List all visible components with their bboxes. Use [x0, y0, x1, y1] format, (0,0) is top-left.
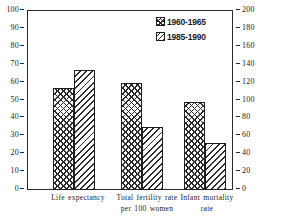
axis-tick-right-40: 40 [242, 148, 250, 158]
tick-mark-icon [20, 152, 24, 153]
x-axis-category-labels: Life expectancyTotal fertility rateper 1… [28, 193, 232, 221]
legend-item-1960-1965: 1960-1965 [156, 15, 242, 28]
legend-swatch-icon [156, 32, 165, 41]
bar [53, 88, 74, 190]
bar [142, 127, 163, 190]
tick-mark-icon [20, 27, 24, 28]
tick-mark-icon [20, 134, 24, 135]
axis-tick-left-60: 60 [11, 77, 19, 87]
axis-tick-left-0: 0 [15, 184, 19, 194]
tick-mark-icon [236, 9, 240, 10]
axis-tick-left-30: 30 [11, 130, 19, 140]
axis-tick-right-200: 200 [242, 5, 255, 15]
tick-mark-icon [20, 170, 24, 171]
tick-mark-icon [20, 81, 24, 82]
tick-mark-icon [20, 99, 24, 100]
tick-mark-icon [20, 45, 24, 46]
axis-tick-left-90: 90 [11, 23, 19, 33]
category-label: Infant mortalityrate [167, 193, 247, 214]
bar-group [53, 11, 97, 190]
category-label-line: rate [167, 204, 247, 215]
tick-mark-icon [20, 188, 24, 189]
axis-tick-right-60: 60 [242, 130, 250, 140]
axis-tick-right-140: 140 [242, 59, 255, 69]
axis-tick-right-100: 100 [242, 95, 255, 105]
axis-tick-left-100: 100 [6, 5, 19, 15]
tick-mark-icon [236, 188, 240, 189]
y-axis-left: 0102030405060708090100 [0, 10, 24, 190]
axis-tick-left-10: 10 [11, 166, 19, 176]
axis-tick-left-20: 20 [11, 148, 19, 158]
bar [74, 70, 95, 190]
legend-label: 1985-1990 [167, 32, 206, 42]
tick-mark-icon [236, 63, 240, 64]
legend-swatch-icon [156, 17, 165, 26]
tick-mark-icon [236, 116, 240, 117]
bar [121, 83, 142, 190]
axis-tick-right-160: 160 [242, 41, 255, 51]
axis-tick-left-40: 40 [11, 112, 19, 122]
tick-mark-icon [20, 116, 24, 117]
tick-mark-icon [236, 152, 240, 153]
axis-tick-right-80: 80 [242, 112, 250, 122]
axis-tick-right-120: 120 [242, 77, 255, 87]
legend-label: 1960-1965 [167, 17, 206, 27]
axis-tick-right-20: 20 [242, 166, 250, 176]
bar-chart: 0102030405060708090100 02040608010012014… [0, 0, 284, 223]
tick-mark-icon [236, 170, 240, 171]
tick-mark-icon [20, 9, 24, 10]
tick-mark-icon [20, 63, 24, 64]
legend-item-1985-1990: 1985-1990 [156, 30, 242, 43]
tick-mark-icon [236, 99, 240, 100]
tick-mark-icon [236, 81, 240, 82]
axis-tick-left-50: 50 [11, 95, 19, 105]
chart-legend: 1960-19651985-1990 [156, 15, 242, 45]
axis-tick-left-70: 70 [11, 59, 19, 69]
axis-tick-left-80: 80 [11, 41, 19, 51]
bar [205, 143, 226, 190]
tick-mark-icon [236, 134, 240, 135]
axis-tick-right-180: 180 [242, 23, 255, 33]
bar [184, 102, 205, 190]
category-label-line: Infant mortality [167, 193, 247, 204]
